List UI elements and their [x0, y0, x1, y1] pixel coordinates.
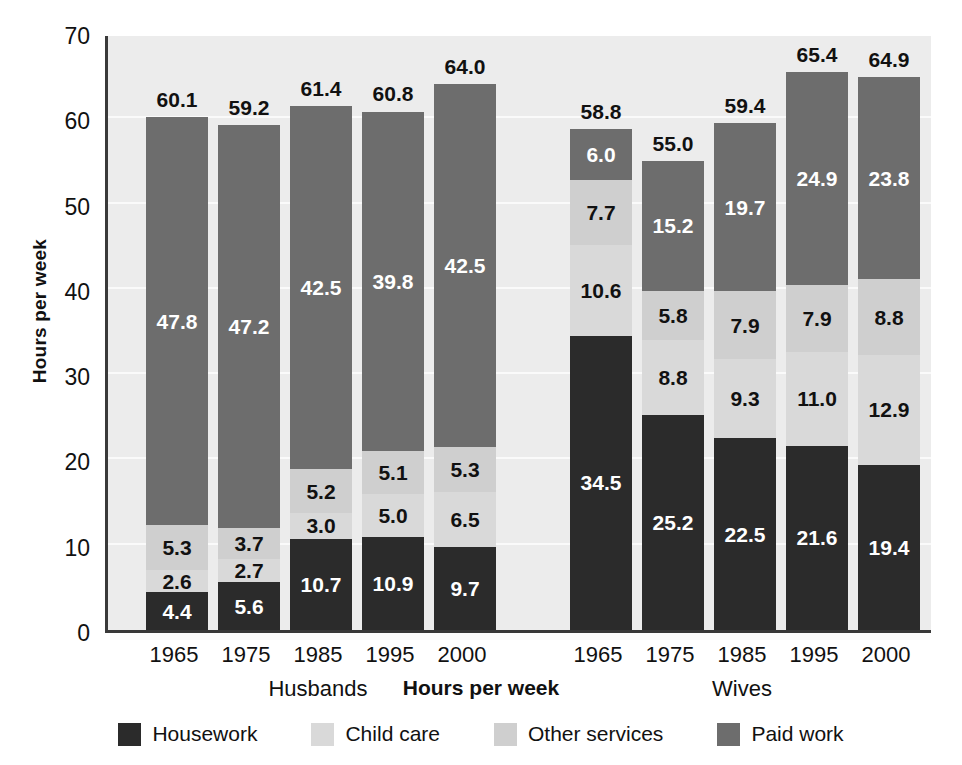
segment-value: 15.2 — [653, 215, 694, 236]
segment-other-services: 7.9 — [786, 285, 848, 352]
segment-value: 10.7 — [301, 574, 342, 595]
y-axis-tick-labels: 706050403020100 — [34, 0, 90, 765]
legend-label: Housework — [152, 722, 257, 746]
x-tick-wives-1985: 1985 — [718, 642, 767, 668]
y-tick-60: 60 — [38, 108, 90, 135]
segment-paid-work: 42.5 — [434, 84, 496, 446]
segment-value: 22.5 — [725, 524, 766, 545]
segment-value: 11.0 — [797, 388, 837, 409]
chart-legend: HouseworkChild careOther servicesPaid wo… — [0, 722, 962, 746]
segment-paid-work: 24.9 — [786, 72, 848, 284]
segment-paid-work: 23.8 — [858, 77, 920, 280]
segment-other-services: 3.7 — [218, 528, 280, 560]
segment-value: 47.2 — [229, 316, 270, 337]
segment-value: 6.5 — [450, 509, 479, 530]
segment-value: 5.1 — [378, 462, 407, 483]
bar-total-label: 55.0 — [653, 132, 694, 156]
segment-other-services: 5.2 — [290, 469, 352, 513]
segment-housework: 10.7 — [290, 539, 352, 630]
bar-husbands-1965[interactable]: 47.85.32.64.460.1 — [146, 117, 208, 630]
segment-paid-work: 15.2 — [642, 161, 704, 291]
segment-paid-work: 6.0 — [570, 129, 632, 180]
bar-wives-1975[interactable]: 15.25.88.825.255.0 — [642, 161, 704, 630]
segment-value: 21.6 — [797, 527, 838, 548]
bar-wives-1985[interactable]: 19.77.99.322.559.4 — [714, 123, 776, 630]
segment-value: 9.7 — [450, 578, 479, 599]
bar-wives-1995[interactable]: 24.97.911.021.665.4 — [786, 72, 848, 630]
segment-value: 19.7 — [725, 197, 766, 218]
segment-housework: 10.9 — [362, 537, 424, 630]
bar-total-label: 64.0 — [445, 55, 486, 79]
segment-child-care: 8.8 — [642, 340, 704, 415]
segment-housework: 21.6 — [786, 446, 848, 630]
y-tick-40: 40 — [38, 278, 90, 305]
segment-housework: 22.5 — [714, 438, 776, 630]
legend-swatch-icon — [717, 723, 740, 746]
group-label-wives: Wives — [712, 676, 772, 702]
bar-wives-1965[interactable]: 6.07.710.634.558.8 — [570, 129, 632, 630]
bar-husbands-2000[interactable]: 42.55.36.59.764.0 — [434, 84, 496, 630]
bar-husbands-1995[interactable]: 39.85.15.010.960.8 — [362, 112, 424, 631]
segment-paid-work: 47.8 — [146, 117, 208, 525]
segment-value: 8.8 — [874, 307, 903, 328]
segment-value: 5.3 — [450, 459, 479, 480]
segment-value: 24.9 — [797, 168, 838, 189]
segment-other-services: 5.3 — [434, 447, 496, 492]
segment-child-care: 6.5 — [434, 492, 496, 547]
segment-value: 34.5 — [581, 472, 622, 493]
segment-value: 10.6 — [581, 280, 622, 301]
segment-child-care: 5.0 — [362, 494, 424, 537]
legend-item-housework[interactable]: Housework — [118, 722, 257, 746]
y-tick-10: 10 — [38, 534, 90, 561]
bar-husbands-1975[interactable]: 47.23.72.75.659.2 — [218, 125, 280, 630]
bar-total-label: 65.4 — [797, 43, 838, 67]
x-tick-wives-1975: 1975 — [646, 642, 695, 668]
segment-value: 5.0 — [378, 505, 407, 526]
segment-value: 5.8 — [658, 305, 687, 326]
segment-value: 9.3 — [730, 388, 759, 409]
bar-husbands-1985[interactable]: 42.55.23.010.761.4 — [290, 106, 352, 630]
segment-child-care: 2.6 — [146, 570, 208, 592]
bar-total-label: 58.8 — [581, 100, 622, 124]
x-axis-title: Hours per week — [403, 676, 559, 700]
segment-value: 5.2 — [306, 481, 335, 502]
y-tick-0: 0 — [38, 620, 90, 647]
segment-value: 2.7 — [234, 560, 263, 581]
segment-value: 8.8 — [658, 367, 687, 388]
segment-housework: 25.2 — [642, 415, 704, 630]
bar-wives-2000[interactable]: 23.88.812.919.464.9 — [858, 77, 920, 630]
legend-item-child-care[interactable]: Child care — [311, 722, 440, 746]
segment-value: 5.6 — [234, 596, 263, 617]
segment-value: 3.7 — [234, 533, 263, 554]
segment-housework: 19.4 — [858, 465, 920, 630]
bar-total-label: 59.2 — [229, 96, 270, 120]
bar-total-label: 64.9 — [869, 48, 910, 72]
segment-child-care: 12.9 — [858, 355, 920, 465]
x-tick-husbands-1985: 1985 — [294, 642, 343, 668]
legend-swatch-icon — [118, 723, 141, 746]
y-tick-20: 20 — [38, 449, 90, 476]
segment-paid-work: 42.5 — [290, 106, 352, 468]
segment-other-services: 5.8 — [642, 291, 704, 340]
legend-item-other-services[interactable]: Other services — [494, 722, 663, 746]
x-tick-wives-1995: 1995 — [790, 642, 839, 668]
segment-value: 42.5 — [301, 277, 342, 298]
segment-other-services: 5.1 — [362, 451, 424, 494]
stacked-bar-chart: Hours per week 706050403020100 47.85.32.… — [0, 0, 962, 765]
segment-paid-work: 19.7 — [714, 123, 776, 291]
x-tick-husbands-1995: 1995 — [366, 642, 415, 668]
segment-value: 7.9 — [730, 315, 759, 336]
segment-value: 6.0 — [586, 144, 615, 165]
segment-child-care: 11.0 — [786, 352, 848, 446]
legend-item-paid-work[interactable]: Paid work — [717, 722, 843, 746]
segment-child-care: 2.7 — [218, 559, 280, 582]
bar-total-label: 59.4 — [725, 94, 766, 118]
segment-value: 25.2 — [653, 512, 694, 533]
segment-value: 47.8 — [157, 311, 198, 332]
legend-label: Child care — [345, 722, 440, 746]
y-tick-70: 70 — [38, 23, 90, 50]
segment-value: 5.3 — [162, 537, 191, 558]
segment-paid-work: 47.2 — [218, 125, 280, 528]
segment-housework: 4.4 — [146, 592, 208, 630]
bar-total-label: 61.4 — [301, 77, 342, 101]
